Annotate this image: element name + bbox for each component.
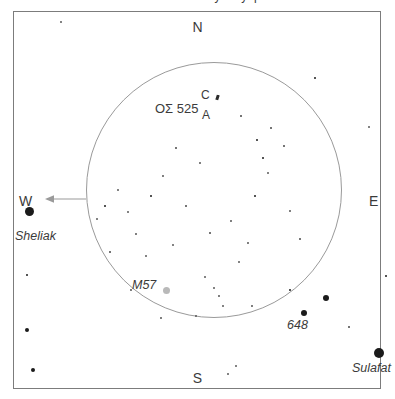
star-point: [96, 218, 98, 220]
star-point: [109, 251, 111, 253]
star-point: [301, 310, 307, 316]
star-point: [185, 205, 187, 207]
star-point: [270, 127, 272, 129]
star-point: [283, 145, 285, 147]
star-point: [145, 255, 147, 257]
star-point: [247, 242, 249, 244]
label-struve-525: OΣ 525: [155, 101, 198, 116]
star-point: [127, 211, 129, 213]
label-m57: M57: [132, 278, 156, 292]
chart-caption: Observation sketch — Lyra eyepiece field: [0, 0, 395, 3]
star-point: [218, 295, 220, 297]
nebula-glyph-m57: [163, 287, 170, 294]
star-point: [251, 305, 253, 307]
star-point: [209, 232, 211, 234]
star-point: [135, 233, 137, 235]
cardinal-south: S: [0, 370, 395, 386]
star-point: [385, 275, 387, 277]
star-point: [175, 147, 177, 149]
star-point: [213, 287, 215, 289]
star-chart-canvas: Observation sketch — Lyra eyepiece field…: [0, 0, 395, 399]
star-point: [199, 162, 201, 164]
cardinal-east: E: [369, 193, 378, 209]
star-point: [227, 373, 229, 375]
star-point: [348, 326, 350, 328]
star-point: [240, 115, 242, 117]
label-component-c: C: [201, 88, 210, 102]
drift-direction-arrow: [44, 190, 88, 208]
star-point: [172, 244, 174, 246]
star-point: [162, 175, 164, 177]
star-point: [267, 172, 269, 174]
star-point: [25, 328, 29, 332]
star-point: [25, 207, 34, 216]
label-star-648: 648: [287, 318, 308, 332]
star-point: [323, 295, 329, 301]
label-sheliak: Sheliak: [15, 229, 56, 243]
star-point: [368, 126, 370, 128]
star-point: [238, 261, 240, 263]
label-sulafat: Sulafat: [352, 361, 391, 375]
star-point: [299, 238, 301, 240]
star-point: [195, 315, 197, 317]
star-point: [160, 317, 162, 319]
label-component-a: A: [202, 108, 210, 122]
star-point: [374, 348, 384, 358]
field-of-view-circle: [86, 62, 342, 318]
star-point: [230, 220, 232, 222]
star-point: [289, 210, 291, 212]
